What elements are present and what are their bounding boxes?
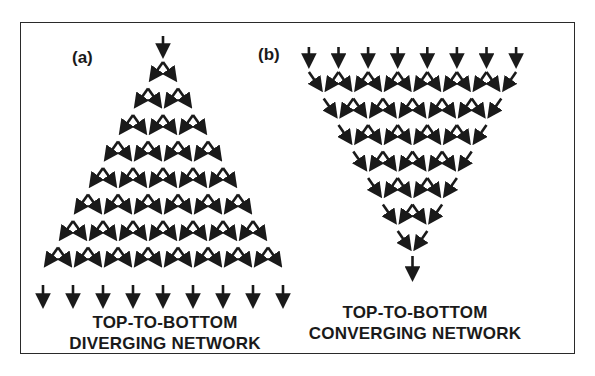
- branch-right-arrow-icon: [208, 248, 220, 265]
- branch-right-arrow-icon: [223, 168, 235, 185]
- branch-left-arrow-icon: [151, 168, 163, 185]
- branch-right-arrow-icon: [427, 125, 439, 142]
- merge-right-arrow-icon: [339, 125, 351, 142]
- branch-right-arrow-icon: [148, 142, 160, 159]
- branch-left-arrow-icon: [226, 248, 238, 265]
- converging-network: [309, 47, 516, 278]
- branch-right-arrow-icon: [472, 99, 484, 116]
- merge-right-arrow-icon: [309, 72, 321, 89]
- branch-left-arrow-icon: [356, 72, 368, 89]
- branch-right-arrow-icon: [398, 178, 410, 195]
- panel-a-label: (a): [72, 48, 93, 68]
- branch-left-arrow-icon: [151, 221, 163, 238]
- branch-left-arrow-icon: [76, 248, 88, 265]
- branch-left-arrow-icon: [136, 142, 148, 159]
- branch-left-arrow-icon: [416, 125, 428, 142]
- merge-left-arrow-icon: [490, 99, 502, 116]
- branch-left-arrow-icon: [430, 99, 442, 116]
- branch-right-arrow-icon: [223, 221, 235, 238]
- panel-a-caption-line2: DIVERGING NETWORK: [55, 333, 275, 354]
- branch-right-arrow-icon: [148, 195, 160, 212]
- branch-left-arrow-icon: [401, 99, 413, 116]
- panel-b-label: (b): [258, 45, 280, 65]
- branch-left-arrow-icon: [241, 221, 253, 238]
- branch-left-arrow-icon: [136, 89, 148, 106]
- branch-left-arrow-icon: [256, 248, 268, 265]
- branch-right-arrow-icon: [457, 125, 469, 142]
- merge-right-arrow-icon: [368, 178, 380, 195]
- branch-right-arrow-icon: [383, 152, 395, 169]
- branch-right-arrow-icon: [163, 115, 175, 132]
- branch-right-arrow-icon: [118, 248, 130, 265]
- merge-left-arrow-icon: [504, 72, 516, 89]
- branch-right-arrow-icon: [193, 168, 205, 185]
- branch-left-arrow-icon: [166, 89, 178, 106]
- branch-right-arrow-icon: [398, 125, 410, 142]
- branch-left-arrow-icon: [136, 248, 148, 265]
- branch-left-arrow-icon: [76, 195, 88, 212]
- branch-right-arrow-icon: [88, 248, 100, 265]
- branch-left-arrow-icon: [371, 152, 383, 169]
- branch-right-arrow-icon: [442, 99, 454, 116]
- branch-left-arrow-icon: [386, 72, 398, 89]
- branch-left-arrow-icon: [121, 221, 133, 238]
- branch-right-arrow-icon: [148, 248, 160, 265]
- branch-right-arrow-icon: [103, 168, 115, 185]
- merge-left-arrow-icon: [416, 231, 428, 248]
- merge-right-arrow-icon: [383, 205, 395, 222]
- branch-right-arrow-icon: [413, 152, 425, 169]
- branch-right-arrow-icon: [118, 142, 130, 159]
- branch-right-arrow-icon: [148, 89, 160, 106]
- panel-b-caption-line2: CONVERGING NETWORK: [300, 323, 530, 344]
- branch-right-arrow-icon: [178, 142, 190, 159]
- branch-left-arrow-icon: [151, 62, 163, 79]
- branch-right-arrow-icon: [383, 99, 395, 116]
- branch-left-arrow-icon: [196, 248, 208, 265]
- branch-right-arrow-icon: [487, 72, 499, 89]
- branch-right-arrow-icon: [193, 115, 205, 132]
- branch-right-arrow-icon: [133, 221, 145, 238]
- branch-left-arrow-icon: [121, 168, 133, 185]
- merge-left-arrow-icon: [445, 178, 457, 195]
- branch-left-arrow-icon: [386, 125, 398, 142]
- branch-right-arrow-icon: [208, 195, 220, 212]
- branch-left-arrow-icon: [46, 248, 58, 265]
- branch-left-arrow-icon: [166, 142, 178, 159]
- branch-left-arrow-icon: [196, 195, 208, 212]
- branch-right-arrow-icon: [88, 195, 100, 212]
- branch-right-arrow-icon: [253, 221, 265, 238]
- merge-left-arrow-icon: [430, 205, 442, 222]
- diverging-network: [43, 36, 283, 305]
- branch-right-arrow-icon: [133, 168, 145, 185]
- branch-right-arrow-icon: [178, 195, 190, 212]
- branch-right-arrow-icon: [238, 248, 250, 265]
- branch-left-arrow-icon: [386, 178, 398, 195]
- branch-right-arrow-icon: [178, 248, 190, 265]
- branch-left-arrow-icon: [475, 72, 487, 89]
- branch-right-arrow-icon: [58, 248, 70, 265]
- branch-left-arrow-icon: [356, 125, 368, 142]
- branch-left-arrow-icon: [401, 205, 413, 222]
- branch-right-arrow-icon: [208, 142, 220, 159]
- branch-right-arrow-icon: [398, 72, 410, 89]
- branch-left-arrow-icon: [121, 115, 133, 132]
- branch-right-arrow-icon: [103, 221, 115, 238]
- panel-a-caption-line1: TOP-TO-BOTTOM: [55, 312, 275, 333]
- branch-left-arrow-icon: [61, 221, 73, 238]
- branch-left-arrow-icon: [151, 115, 163, 132]
- branch-right-arrow-icon: [133, 115, 145, 132]
- branch-left-arrow-icon: [445, 125, 457, 142]
- branch-right-arrow-icon: [368, 72, 380, 89]
- panel-a-caption: TOP-TO-BOTTOM DIVERGING NETWORK: [55, 312, 275, 354]
- branch-left-arrow-icon: [106, 248, 118, 265]
- merge-right-arrow-icon: [324, 99, 336, 116]
- panel-b-caption-line1: TOP-TO-BOTTOM: [300, 302, 530, 323]
- branch-left-arrow-icon: [327, 72, 339, 89]
- branch-right-arrow-icon: [368, 125, 380, 142]
- branch-right-arrow-icon: [268, 248, 280, 265]
- branch-right-arrow-icon: [178, 89, 190, 106]
- branch-left-arrow-icon: [416, 178, 428, 195]
- branch-left-arrow-icon: [181, 221, 193, 238]
- branch-right-arrow-icon: [73, 221, 85, 238]
- branch-left-arrow-icon: [445, 72, 457, 89]
